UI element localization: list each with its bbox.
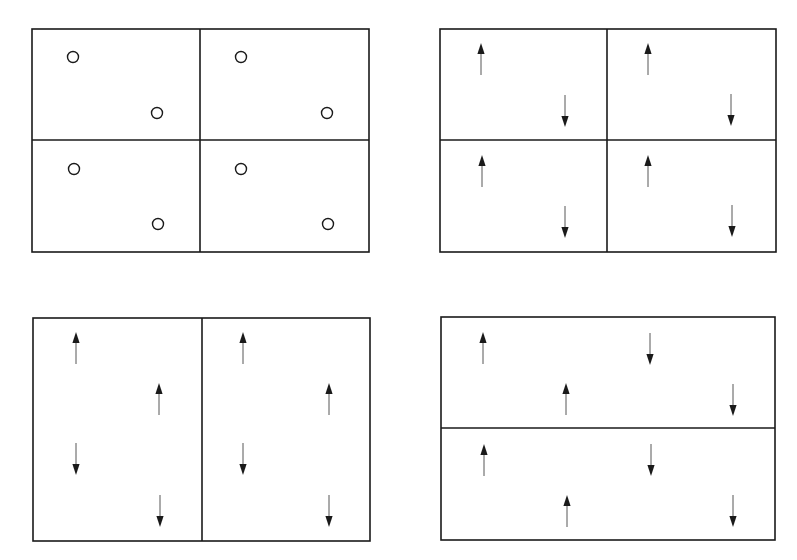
spin-down-arrow-icon: [647, 444, 654, 476]
spin-up-arrow-icon: [72, 332, 79, 364]
spin-down-arrow-icon: [325, 495, 332, 527]
spin-down-arrow-icon: [729, 495, 736, 527]
spin-down-arrow-icon: [561, 206, 568, 238]
site-circle-icon: [236, 52, 247, 63]
panel-d: [441, 317, 775, 540]
panel-c: [33, 318, 370, 541]
site-circle-icon: [153, 219, 164, 230]
site-circle-icon: [152, 108, 163, 119]
site-circle-icon: [322, 108, 333, 119]
spin-up-arrow-icon: [239, 332, 246, 364]
spin-up-arrow-icon: [644, 43, 651, 75]
spin-up-arrow-icon: [325, 383, 332, 415]
site-circle-icon: [69, 164, 80, 175]
spin-up-arrow-icon: [479, 332, 486, 364]
panel-a: [32, 29, 369, 252]
spin-down-arrow-icon: [728, 205, 735, 237]
spin-down-arrow-icon: [646, 333, 653, 365]
spin-up-arrow-icon: [480, 444, 487, 476]
spin-up-arrow-icon: [477, 43, 484, 75]
spin-up-arrow-icon: [644, 155, 651, 187]
spin-down-arrow-icon: [72, 443, 79, 475]
site-circle-icon: [68, 52, 79, 63]
spin-up-arrow-icon: [478, 155, 485, 187]
spin-configuration-diagram: [0, 0, 797, 560]
panel-b: [440, 29, 776, 252]
spin-down-arrow-icon: [156, 495, 163, 527]
spin-up-arrow-icon: [563, 495, 570, 527]
spin-down-arrow-icon: [561, 95, 568, 127]
site-circle-icon: [236, 164, 247, 175]
spin-up-arrow-icon: [562, 383, 569, 415]
spin-down-arrow-icon: [729, 384, 736, 416]
site-circle-icon: [323, 219, 334, 230]
spin-up-arrow-icon: [155, 383, 162, 415]
spin-down-arrow-icon: [727, 94, 734, 126]
spin-down-arrow-icon: [239, 443, 246, 475]
